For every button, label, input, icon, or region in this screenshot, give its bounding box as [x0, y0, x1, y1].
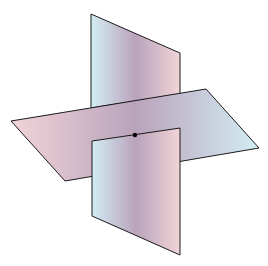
vertical-plane-back: [91, 14, 180, 108]
intersection-point: [133, 133, 137, 137]
intersecting-planes-diagram: [0, 0, 268, 266]
vertical-plane-front: [92, 128, 180, 255]
